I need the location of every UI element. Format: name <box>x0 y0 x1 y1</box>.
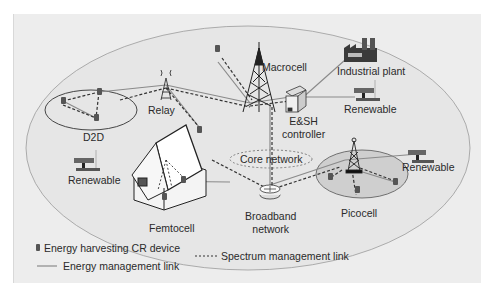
relay-label: Relay <box>148 104 175 116</box>
device-icon <box>181 176 186 183</box>
device-icon <box>197 126 202 133</box>
macrocell-label: Macrocell <box>262 61 307 73</box>
picocell-label: Picocell <box>341 207 377 219</box>
renewable-left-label: Renewable <box>68 174 121 186</box>
broadband-router-icon <box>260 185 280 199</box>
renewable-right-label: Renewable <box>402 161 455 173</box>
broadband-line1: Broadband <box>245 210 296 222</box>
core-network-label: Core network <box>240 153 302 165</box>
industrial-plant-label: Industrial plant <box>337 65 405 77</box>
device-icon <box>355 186 360 193</box>
device-icon <box>162 193 167 200</box>
legend-device-label: Energy harvesting CR device <box>44 242 180 254</box>
legend-device-icon <box>36 244 40 251</box>
esh-line1: E&SH <box>289 115 318 127</box>
device-icon <box>393 178 398 185</box>
device-icon <box>94 114 99 121</box>
broadband-line2: network <box>252 223 289 235</box>
esh-controller-label: E&SHcontroller <box>282 115 325 141</box>
broadband-network-label: Broadbandnetwork <box>245 210 296 236</box>
device-icon <box>61 97 66 104</box>
esh-line2: controller <box>282 128 325 140</box>
device-icon <box>328 173 333 180</box>
device-icon <box>97 88 102 95</box>
legend-energy-link-label: Energy management link <box>63 260 179 272</box>
d2d-label: D2D <box>83 131 104 143</box>
femtocell-label: Femtocell <box>149 222 195 234</box>
renewable-top-label: Renewable <box>344 103 397 115</box>
legend-spectrum-link-label: Spectrum management link <box>221 250 349 262</box>
device-icon <box>215 45 220 52</box>
